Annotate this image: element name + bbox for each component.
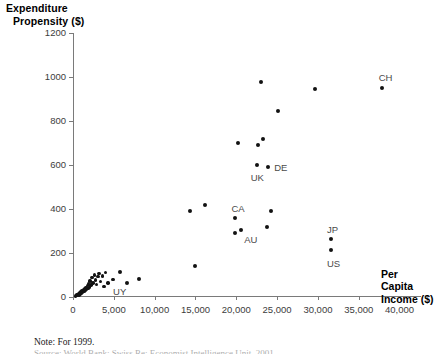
point-label-jp: JP <box>327 225 338 235</box>
y-tick-mark <box>69 165 73 166</box>
data-point <box>255 163 259 167</box>
data-point <box>276 109 280 113</box>
x-tick-label: 0 <box>70 305 75 315</box>
point-label-us: US <box>327 259 340 269</box>
x-tick-label: 25,000 <box>263 305 292 315</box>
plot-area <box>73 33 420 297</box>
scatter-chart-figure: ExpenditurePropensity ($) 02004006008001… <box>0 0 445 357</box>
y-tick-label: 400 <box>50 204 66 214</box>
data-point <box>188 209 192 213</box>
point-label-ch: CH <box>379 73 393 83</box>
y-tick-mark <box>69 77 73 78</box>
y-axis-title-line1: Expenditure <box>6 2 68 14</box>
x-tick-mark <box>236 296 237 300</box>
x-tick-mark <box>277 296 278 300</box>
y-tick-mark <box>69 253 73 254</box>
x-axis-title-line3: Income ($) <box>381 293 434 305</box>
data-point <box>111 278 114 281</box>
source-text-clipped: Source: World Bank; Swiss Re; Economist … <box>34 348 274 354</box>
x-tick-label: 5,000 <box>102 305 126 315</box>
point-label-uk: UK <box>251 173 264 183</box>
data-point <box>233 231 237 235</box>
y-tick-mark <box>69 33 73 34</box>
x-tick-mark <box>155 296 156 300</box>
x-tick-mark <box>318 296 319 300</box>
data-point <box>265 225 269 229</box>
point-label-uy: UY <box>113 287 126 297</box>
data-point <box>259 80 263 84</box>
y-tick-label: 1200 <box>45 28 66 38</box>
x-tick-label: 15,000 <box>181 305 210 315</box>
x-axis-title-line2: Capita <box>381 280 434 292</box>
x-tick-label: 40,000 <box>385 305 414 315</box>
data-point <box>118 270 122 274</box>
y-tick-mark <box>69 209 73 210</box>
y-tick-label: 600 <box>50 160 66 170</box>
x-tick-mark <box>359 296 360 300</box>
data-point <box>193 264 197 268</box>
y-axis-title-line2: Propensity ($) <box>6 15 84 28</box>
y-axis-title: ExpenditurePropensity ($) <box>6 2 84 27</box>
x-tick-label: 30,000 <box>303 305 332 315</box>
data-point <box>266 165 270 169</box>
y-tick-label: 1000 <box>45 72 66 82</box>
x-tick-mark <box>195 296 196 300</box>
data-point <box>101 274 104 277</box>
point-label-ca: CA <box>231 204 244 214</box>
y-tick-label: 800 <box>50 116 66 126</box>
y-tick-mark <box>69 121 73 122</box>
data-point <box>236 141 240 145</box>
data-point <box>380 86 384 90</box>
note-text: Note: For 1999. <box>34 337 94 347</box>
data-point <box>256 143 260 147</box>
chart-notes: Note: For 1999. Source: World Bank; Swis… <box>34 337 274 354</box>
data-point <box>313 87 317 91</box>
y-tick-label: 200 <box>50 248 66 258</box>
x-axis-title-line1: Per <box>381 268 434 280</box>
x-tick-label: 35,000 <box>344 305 373 315</box>
x-axis-title: Per Capita Income ($) <box>381 268 434 305</box>
data-point <box>94 278 97 281</box>
x-tick-label: 20,000 <box>222 305 251 315</box>
data-point <box>102 285 105 288</box>
y-tick-label: 0 <box>61 292 66 302</box>
point-label-au: AU <box>244 235 257 245</box>
point-label-de: DE <box>274 163 287 173</box>
data-point <box>106 281 109 284</box>
data-point <box>269 209 273 213</box>
x-tick-label: 10,000 <box>140 305 169 315</box>
